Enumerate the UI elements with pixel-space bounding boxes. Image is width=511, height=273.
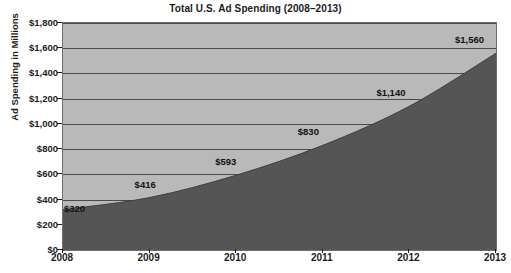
x-axis-tick-label: 2012 bbox=[378, 252, 438, 263]
x-axis-tick-label: 2009 bbox=[119, 252, 179, 263]
x-axis-tick-label: 2013 bbox=[465, 252, 511, 263]
y-axis-tick-label: $1,000 bbox=[4, 117, 58, 128]
y-axis-tick-label: $1,600 bbox=[4, 42, 58, 53]
x-axis-tick-mark bbox=[495, 249, 496, 253]
y-axis-tick-label: $1,400 bbox=[4, 67, 58, 78]
area-series-fill bbox=[63, 53, 496, 250]
data-point-label: $320 bbox=[64, 202, 85, 213]
x-axis-tick-label: 2010 bbox=[205, 252, 265, 263]
data-point-label: $1,560 bbox=[455, 34, 484, 45]
x-axis-tick-label: 2011 bbox=[292, 252, 352, 263]
chart-container: Total U.S. Ad Spending (2008–2013) Ad Sp… bbox=[0, 0, 511, 273]
data-point-label: $416 bbox=[135, 178, 156, 189]
x-axis-tick-mark bbox=[322, 249, 323, 253]
y-axis-tick-labels: $0$200$400$600$800$1,000$1,200$1,400$1,6… bbox=[0, 0, 58, 273]
x-axis-tick-labels: 200820092010201120122013 bbox=[0, 252, 511, 270]
x-axis-tick-mark bbox=[149, 249, 150, 253]
y-axis-tick-label: $1,800 bbox=[4, 17, 58, 28]
data-point-label: $1,140 bbox=[376, 87, 405, 98]
chart-title: Total U.S. Ad Spending (2008–2013) bbox=[0, 3, 511, 14]
y-axis-tick-label: $1,200 bbox=[4, 92, 58, 103]
y-axis-tick-label: $600 bbox=[4, 168, 58, 179]
plot-area bbox=[62, 22, 497, 251]
data-point-label: $830 bbox=[298, 126, 319, 137]
x-axis-tick-mark bbox=[408, 249, 409, 253]
y-axis-tick-label: $200 bbox=[4, 218, 58, 229]
x-axis-tick-mark bbox=[62, 249, 63, 253]
y-axis-tick-label: $400 bbox=[4, 193, 58, 204]
x-axis-tick-mark bbox=[235, 249, 236, 253]
area-series-svg bbox=[63, 23, 496, 250]
x-axis-tick-label: 2008 bbox=[32, 252, 92, 263]
data-point-label: $593 bbox=[215, 156, 236, 167]
y-axis-tick-label: $800 bbox=[4, 143, 58, 154]
